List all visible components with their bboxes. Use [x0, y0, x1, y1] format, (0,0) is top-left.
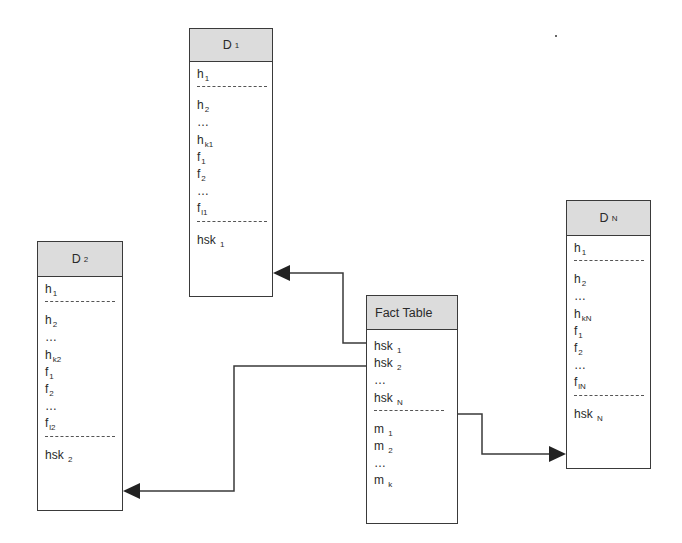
attribute-name: f: [197, 201, 200, 215]
attribute-subscript: 2: [578, 348, 582, 357]
attribute-subscript: k2: [53, 355, 61, 364]
table-row: hk2: [45, 347, 122, 364]
stray-dot: [555, 35, 557, 37]
attribute-name: h: [574, 241, 581, 255]
arrowhead-d1-icon: [273, 265, 290, 281]
table-row: hsk 2: [374, 355, 457, 372]
attribute-subscript: 1: [397, 346, 401, 355]
attribute-name: m: [374, 422, 387, 436]
attribute-name: h: [45, 282, 52, 296]
attribute-name: h: [197, 67, 204, 81]
table-row: f1: [574, 323, 650, 340]
attribute-name: hsk: [374, 391, 396, 405]
attribute-subscript: 1: [201, 157, 205, 166]
dashed-divider: [45, 436, 115, 437]
arrowhead-d2-icon: [123, 483, 140, 499]
table-row: hkN: [574, 306, 650, 323]
dimension-table-d2[interactable]: D2 h1h2…hk2f1f2…fl2hsk 2: [37, 241, 123, 511]
attribute-subscript: 2: [205, 105, 209, 114]
attribute-name: h: [45, 348, 52, 362]
row-separator: [374, 410, 457, 421]
table-row: …: [45, 398, 122, 415]
attribute-name: …: [197, 115, 209, 129]
dashed-divider: [374, 410, 444, 411]
table-row: m 2: [374, 438, 457, 455]
attribute-subscript: 1: [205, 74, 209, 83]
dimension-table-dn[interactable]: DN h1h2…hkNf1f2…flNhsk N: [566, 200, 651, 469]
attribute-subscript: 2: [49, 389, 53, 398]
table-row: f2: [574, 340, 650, 357]
attribute-name: …: [45, 330, 57, 344]
dashed-divider: [197, 86, 267, 87]
table-body: h1h2…hkNf1f2…flNhsk N: [567, 236, 650, 423]
attribute-name: f: [574, 341, 577, 355]
attribute-subscript: 1: [578, 331, 582, 340]
table-row: …: [574, 357, 650, 374]
attribute-subscript: 2: [582, 279, 586, 288]
table-header: D1: [190, 29, 272, 62]
attribute-subscript: l2: [49, 423, 55, 432]
dashed-divider: [197, 221, 267, 222]
attribute-name: hsk: [374, 356, 396, 370]
attribute-subscript: 1: [49, 372, 53, 381]
attribute-name: f: [45, 382, 48, 396]
attribute-subscript: 1: [53, 289, 57, 298]
connector-fact-to-dn: [458, 414, 549, 454]
attribute-subscript: 2: [388, 446, 392, 455]
attribute-name: hsk: [197, 233, 219, 247]
dashed-divider: [574, 260, 644, 261]
table-row: …: [374, 455, 457, 472]
attribute-name: f: [45, 365, 48, 379]
table-row: h1: [574, 240, 650, 257]
attribute-name: …: [45, 399, 57, 413]
table-row: h1: [197, 66, 272, 83]
table-row: h2: [574, 271, 650, 288]
attribute-name: …: [374, 373, 386, 387]
attribute-name: hsk: [45, 448, 67, 462]
table-row: h1: [45, 281, 122, 298]
attribute-name: f: [45, 416, 48, 430]
attribute-subscript: 1: [388, 429, 392, 438]
table-title: D: [223, 38, 232, 52]
row-separator: [45, 301, 122, 312]
attribute-subscript: 1: [582, 248, 586, 257]
attribute-subscript: 1: [220, 240, 224, 249]
table-header: D2: [38, 242, 122, 277]
attribute-name: hsk: [574, 407, 596, 421]
table-row: …: [374, 372, 457, 389]
attribute-name: h: [197, 133, 204, 147]
attribute-name: m: [374, 473, 387, 487]
connector-fact-to-d2: [140, 366, 366, 491]
attribute-subscript: l1: [201, 208, 207, 217]
row-separator: [197, 86, 272, 97]
row-separator: [197, 221, 272, 232]
table-row: f1: [45, 364, 122, 381]
table-title: D: [600, 211, 609, 225]
table-row: …: [45, 329, 122, 346]
table-row: hsk 1: [374, 338, 457, 355]
table-row: h2: [45, 312, 122, 329]
attribute-name: m: [374, 439, 387, 453]
fact-table[interactable]: Fact Table hsk 1hsk 2…hsk Nm 1m 2…m k: [366, 295, 458, 524]
table-body: h1h2…hk1f1f2…fl1hsk 1: [190, 62, 272, 249]
row-separator: [574, 260, 650, 271]
table-header: Fact Table: [367, 296, 457, 330]
attribute-name: f: [574, 375, 577, 389]
dimension-table-d1[interactable]: D1 h1h2…hk1f1f2…fl1hsk 1: [189, 28, 273, 297]
table-row: h2: [197, 97, 272, 114]
table-row: hsk N: [574, 406, 650, 423]
table-body: h1h2…hk2f1f2…fl2hsk 2: [38, 277, 122, 464]
table-title: D: [72, 252, 81, 266]
table-row: m 1: [374, 421, 457, 438]
attribute-name: h: [197, 98, 204, 112]
table-header: DN: [567, 201, 650, 236]
table-row: f1: [197, 149, 272, 166]
table-row: hsk N: [374, 390, 457, 407]
dashed-divider: [45, 301, 115, 302]
table-row: fl2: [45, 415, 122, 432]
table-row: f2: [197, 166, 272, 183]
table-row: flN: [574, 374, 650, 391]
attribute-subscript: 2: [397, 363, 401, 372]
table-row: …: [197, 183, 272, 200]
connector-fact-to-d1: [290, 273, 366, 343]
